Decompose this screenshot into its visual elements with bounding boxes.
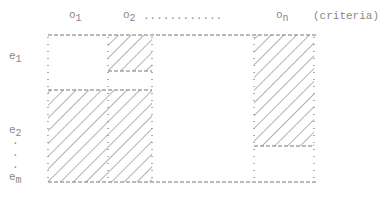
- criteria-label: (criteria): [313, 11, 379, 22]
- column-label-on: on: [276, 10, 289, 21]
- row-label-e2: e2: [9, 125, 22, 136]
- row-ellipsis-dot: ·: [12, 138, 19, 149]
- diagram-canvas: [0, 0, 383, 199]
- column-label-o2: o2: [123, 10, 136, 21]
- row-ellipsis-dot: ·: [12, 150, 19, 161]
- row-label-e1: e1: [9, 51, 22, 62]
- column-ellipsis: ............: [143, 11, 222, 22]
- row-label-em: em: [9, 172, 22, 183]
- column-label-o1: o1: [69, 10, 82, 21]
- hatched-region-on: [254, 35, 314, 146]
- hatched-region-o2-e1: [108, 35, 152, 71]
- hatched-region-o1-o2-e2-em: [48, 90, 152, 182]
